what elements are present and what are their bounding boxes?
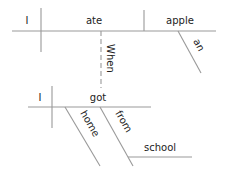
- main-subject-word: I: [26, 15, 29, 26]
- main-object-word: apple: [166, 15, 194, 26]
- sub-verb-word: got: [90, 92, 106, 103]
- connector-word: When: [105, 44, 116, 73]
- adverb-word: home: [78, 109, 102, 139]
- sentence-diagram: I ate apple an When I got home from scho…: [0, 0, 226, 178]
- sub-subject-word: I: [39, 92, 42, 103]
- article-word: an: [191, 37, 207, 53]
- preposition-word: from: [113, 109, 134, 135]
- main-verb-word: ate: [86, 15, 102, 26]
- prep-object-word: school: [144, 142, 176, 153]
